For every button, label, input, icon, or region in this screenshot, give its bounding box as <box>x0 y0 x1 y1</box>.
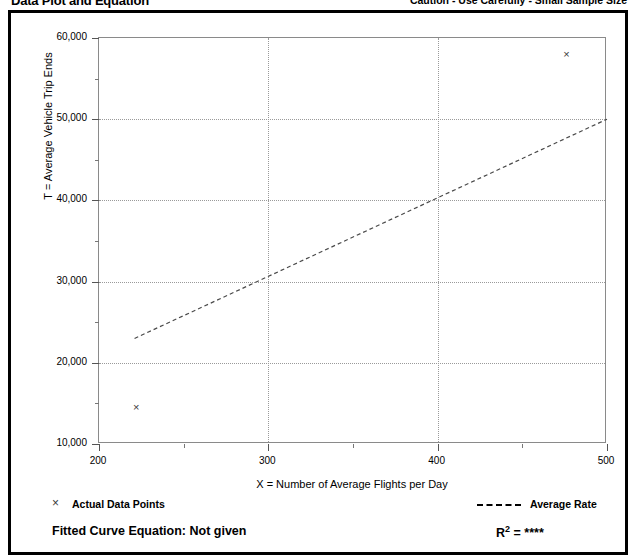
y-tick-major <box>92 119 99 120</box>
x-tick-major <box>607 444 608 451</box>
y-tick-minor <box>95 403 99 404</box>
chart-legend: × Actual Data Points Average Rate Fitted… <box>0 490 635 549</box>
x-tick-major <box>438 444 439 451</box>
x-axis-title: X = Number of Average Flights per Day <box>98 478 606 490</box>
y-tick-major <box>92 363 99 364</box>
legend-average-rate-label: Average Rate <box>530 498 597 510</box>
y-tick-major <box>92 444 99 445</box>
gridline-vertical <box>438 38 439 442</box>
x-tick-major <box>268 444 269 451</box>
y-tick-label: 30,000 <box>31 275 87 286</box>
dashed-line-icon <box>477 504 521 506</box>
x-tick-label: 400 <box>417 455 457 466</box>
legend-row-series: × Actual Data Points Average Rate <box>0 495 635 515</box>
cross-marker-icon: × <box>52 496 59 510</box>
y-tick-label: 10,000 <box>31 437 87 448</box>
x-tick-major <box>99 444 100 451</box>
gridline-horizontal <box>99 363 605 364</box>
r-squared-prefix: R <box>496 526 505 540</box>
r-squared-equals: = **** <box>510 526 544 540</box>
gridline-horizontal <box>99 200 605 201</box>
data-point-marker: × <box>131 402 142 413</box>
y-tick-label: 60,000 <box>31 31 87 42</box>
x-tick-label: 200 <box>78 455 118 466</box>
gridline-vertical <box>268 38 269 442</box>
y-tick-major <box>92 200 99 201</box>
y-tick-minor <box>95 79 99 80</box>
gridline-horizontal <box>99 119 605 120</box>
y-tick-major <box>92 38 99 39</box>
legend-row-equation: Fitted Curve Equation: Not given R2 = **… <box>0 524 635 546</box>
y-tick-minor <box>95 160 99 161</box>
average-rate-trendline <box>99 38 607 444</box>
y-tick-label: 50,000 <box>31 112 87 123</box>
x-tick-label: 500 <box>586 455 626 466</box>
gridline-horizontal <box>99 282 605 283</box>
y-tick-label: 20,000 <box>31 356 87 367</box>
x-tick-label: 300 <box>247 455 287 466</box>
y-tick-minor <box>95 241 99 242</box>
plot-area: ×× <box>98 37 606 443</box>
r-squared-value: R2 = **** <box>496 524 544 540</box>
chart-region: ×× T = Average Vehicle Trip Ends X = Num… <box>0 0 635 490</box>
fitted-curve-equation: Fitted Curve Equation: Not given <box>52 524 246 538</box>
y-tick-minor <box>95 322 99 323</box>
data-point-marker: × <box>561 49 572 60</box>
x-tick-minor <box>184 444 185 448</box>
y-tick-label: 40,000 <box>31 193 87 204</box>
x-tick-minor <box>522 444 523 448</box>
legend-actual-data-points-label: Actual Data Points <box>72 498 165 510</box>
y-tick-major <box>92 282 99 283</box>
x-tick-minor <box>353 444 354 448</box>
